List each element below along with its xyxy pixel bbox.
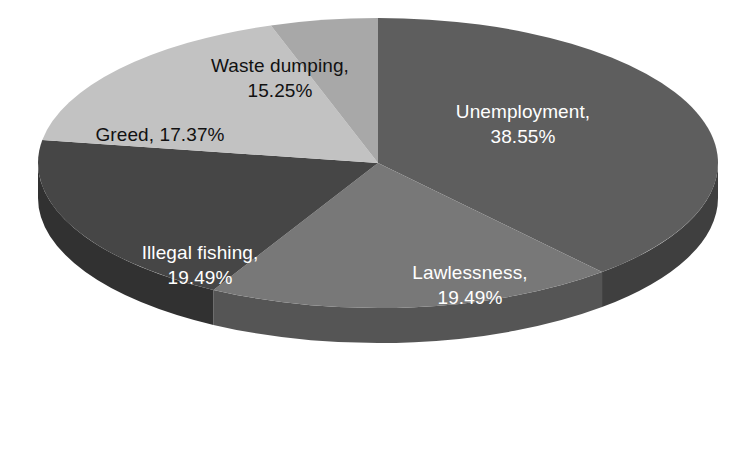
pie-chart-canvas bbox=[0, 0, 749, 450]
pie-slice-tops bbox=[38, 18, 718, 308]
pie-chart: Unemployment, 38.55% Lawlessness, 19.49%… bbox=[0, 0, 749, 450]
